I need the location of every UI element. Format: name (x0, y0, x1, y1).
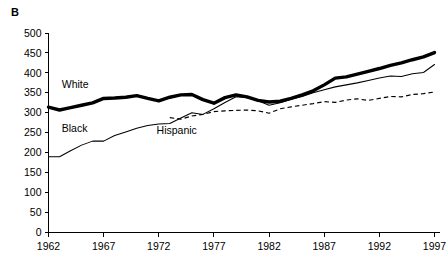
series-line-black (49, 65, 435, 157)
y-tick-label: 400 (24, 67, 42, 79)
y-tick-label: 100 (24, 186, 42, 198)
x-tick-label: 1982 (257, 240, 281, 252)
chart-series-lines (49, 53, 435, 157)
figure-panel-b: B 050100150200250300350400450500 1962196… (0, 0, 447, 262)
chart-tick-marks (45, 33, 435, 237)
series-label-hispanic: Hispanic (157, 124, 197, 136)
x-tick-label: 1987 (313, 240, 337, 252)
x-tick-label: 1977 (202, 240, 226, 252)
y-tick-label: 450 (24, 47, 42, 59)
x-axis-tick-labels: 19621967197219771982198719921997 (37, 240, 447, 252)
y-tick-label: 250 (24, 126, 42, 138)
y-tick-label: 300 (24, 106, 42, 118)
y-tick-label: 150 (24, 166, 42, 178)
x-tick-label: 1962 (37, 240, 61, 252)
x-tick-label: 1967 (92, 240, 116, 252)
chart-axes (49, 33, 440, 233)
y-tick-label: 350 (24, 86, 42, 98)
y-tick-label: 500 (24, 27, 42, 39)
y-axis-tick-labels: 050100150200250300350400450500 (24, 27, 42, 239)
y-tick-label: 50 (30, 206, 42, 218)
x-tick-label: 1972 (147, 240, 171, 252)
y-tick-label: 200 (24, 146, 42, 158)
series-label-black: Black (62, 122, 88, 134)
y-tick-label: 0 (36, 226, 42, 238)
series-line-white (49, 53, 435, 110)
x-tick-label: 1997 (423, 240, 447, 252)
line-chart: 050100150200250300350400450500 196219671… (0, 0, 447, 262)
series-label-white: White (62, 78, 89, 90)
x-tick-label: 1992 (368, 240, 392, 252)
